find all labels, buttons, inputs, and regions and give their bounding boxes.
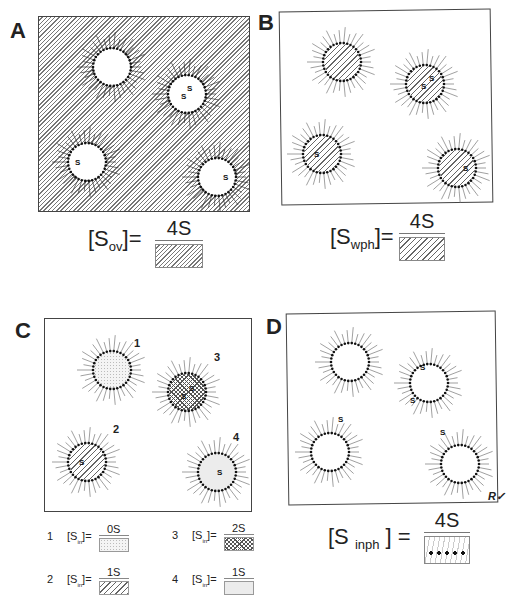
- equation-s-wph: [Swph]=: [330, 224, 394, 252]
- micelle: [80, 35, 144, 99]
- solute-s: S: [189, 384, 194, 393]
- micelle: SS: [155, 62, 219, 126]
- micelle-number-1: 1: [134, 337, 140, 349]
- swatch-water-phase-hatch: [399, 237, 445, 261]
- micelle-number-2: 2: [113, 423, 119, 435]
- solute-s: S: [187, 84, 192, 93]
- solute-s: S: [181, 392, 186, 401]
- swatch-cross-hatched: [224, 537, 254, 551]
- legend-item-3: 3[Sin]= 2S: [172, 522, 254, 551]
- micelle-number-3: 3: [214, 351, 220, 363]
- micelle: [428, 432, 492, 496]
- solute-s: S: [420, 363, 425, 372]
- solute-s: S: [223, 173, 228, 182]
- equation-s-inph: [S inph ] =: [328, 524, 411, 552]
- micelle: S: [425, 136, 489, 200]
- swatch-interphase-dots: [424, 536, 470, 564]
- solute-s: S: [440, 428, 445, 437]
- micelle: SS: [393, 52, 457, 116]
- micelle: [298, 420, 362, 484]
- swatch-overall-hatch: [155, 244, 203, 268]
- micelle-4: S: [185, 440, 249, 504]
- fraction-b: 4S: [399, 210, 445, 261]
- solute-s: S: [181, 92, 186, 101]
- micelle: [310, 30, 374, 94]
- micelle-number-4: 4: [233, 431, 239, 443]
- panel-label-b: B: [258, 10, 274, 36]
- micelle: S: [290, 122, 354, 186]
- swatch-dotted: [99, 538, 129, 552]
- micelle: S: [185, 145, 249, 209]
- legend-item-1: 1[Sin]= 0S: [47, 523, 129, 552]
- equation-s-ov: [Sov]=: [88, 226, 142, 254]
- panel-label-a: A: [10, 18, 26, 44]
- author-signature: R✓: [488, 490, 505, 503]
- solute-s: S: [314, 150, 319, 159]
- micelle-2: S: [55, 430, 119, 494]
- fraction-a: 4S: [155, 217, 203, 268]
- solute-s: S: [79, 458, 84, 467]
- micelle: S: [55, 130, 119, 194]
- solute-s: S: [463, 164, 468, 173]
- solute-s: S: [217, 468, 222, 477]
- solute-s: S: [338, 415, 343, 424]
- solute-s: S: [429, 74, 434, 83]
- swatch-hatched: [99, 581, 129, 595]
- solute-s: S: [410, 396, 415, 405]
- solute-s: S: [75, 158, 80, 167]
- micelle: [318, 330, 382, 394]
- panel-label-c: C: [15, 318, 31, 344]
- micelle-3: SS: [155, 360, 219, 424]
- swatch-light-grey: [224, 581, 254, 595]
- panel-label-d: D: [266, 314, 282, 340]
- micelle: [397, 351, 461, 415]
- legend-item-4: 4[Sin]= 1S: [172, 566, 254, 595]
- fraction-d: 4S: [424, 509, 470, 564]
- solute-s: S: [421, 82, 426, 91]
- legend-item-2: 2[Sin]= 1S: [47, 566, 129, 595]
